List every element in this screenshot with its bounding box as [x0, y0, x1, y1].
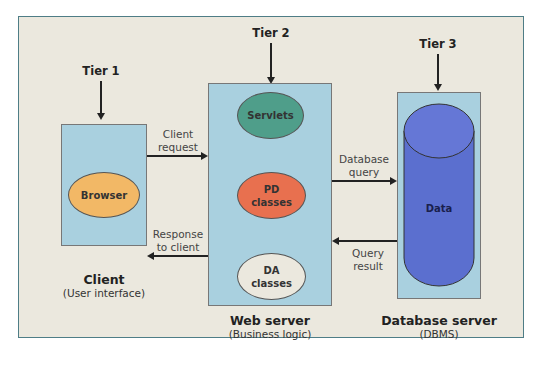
database-server-subtitle: (DBMS) [379, 328, 499, 340]
response-arrow [153, 255, 208, 257]
tier-3-label: Tier 3 [408, 37, 468, 51]
query-result-arrowhead-icon [332, 237, 339, 245]
client-request-arrow [147, 155, 202, 157]
tier-3-arrowhead-icon [434, 84, 442, 91]
browser-ellipse: Browser [68, 172, 140, 218]
da-classes-line2: classes [251, 277, 292, 290]
client-subtitle: (User interface) [44, 287, 164, 299]
tier-1-arrow [100, 81, 102, 113]
data-label: Data [403, 202, 475, 215]
tier-2-label: Tier 2 [241, 26, 301, 40]
response-arrowhead-icon [147, 252, 154, 260]
query-result-line2: result [338, 260, 398, 273]
tier-2-arrow [270, 43, 272, 77]
response-line2: to client [148, 241, 208, 254]
pd-classes-line1: PD [264, 183, 280, 196]
data-cylinder-icon [403, 103, 475, 288]
client-request-arrowhead-icon [201, 152, 208, 160]
client-request-line2: request [148, 141, 208, 154]
tier-1-arrowhead-icon [97, 113, 105, 120]
database-query-line1: Database [334, 153, 394, 166]
database-server-title: Database server [379, 313, 499, 328]
pd-classes-ellipse: PD classes [237, 172, 306, 219]
database-query-arrowhead-icon [390, 177, 397, 185]
web-server-title: Web server [210, 313, 330, 328]
query-result-arrow [339, 240, 397, 242]
database-query-line2: query [334, 166, 394, 179]
tier-3-arrow [437, 54, 439, 84]
browser-label: Browser [81, 189, 127, 202]
da-classes-ellipse: DA classes [237, 253, 306, 300]
query-result-line1: Query [338, 247, 398, 260]
client-title: Client [44, 272, 164, 287]
database-query-arrow [332, 180, 390, 182]
web-server-subtitle: (Business logic) [210, 328, 330, 340]
tier-1-label: Tier 1 [71, 64, 131, 78]
client-request-line1: Client [148, 128, 208, 141]
da-classes-line1: DA [263, 264, 279, 277]
response-line1: Response [148, 228, 208, 241]
pd-classes-line2: classes [251, 196, 292, 209]
servlets-label: Servlets [247, 109, 293, 122]
servlets-ellipse: Servlets [237, 92, 304, 139]
